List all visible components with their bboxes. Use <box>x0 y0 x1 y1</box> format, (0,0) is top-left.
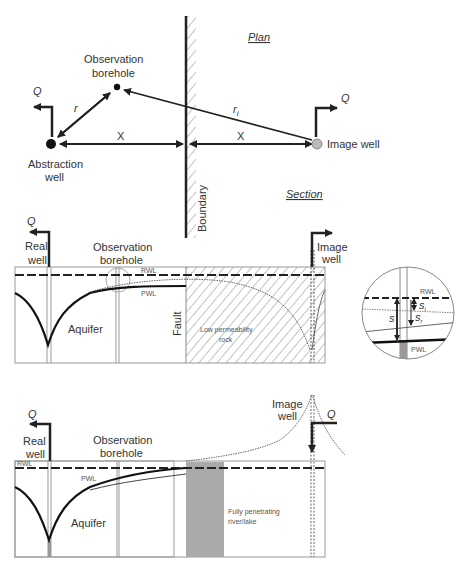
river-label-1: Fully penetrating <box>228 508 280 516</box>
inset-s: s <box>389 312 395 324</box>
rwl-label: RWL <box>141 267 157 274</box>
q-arrow-right <box>316 108 337 137</box>
pwl-label: PWL <box>141 290 156 297</box>
bottom-pwl-label: PWL <box>81 475 96 482</box>
plan-image-well-label: Image well <box>327 138 380 150</box>
abstraction-label-1: Abstraction <box>28 158 83 170</box>
low-perm-label-2: rock <box>219 336 233 343</box>
bottom-pwl-curve <box>15 468 186 540</box>
abstraction-well-dot <box>46 139 56 149</box>
x-label-right: X <box>237 130 245 142</box>
image-well-dot <box>312 139 322 149</box>
x-label-left: X <box>117 130 125 142</box>
section-title: Section <box>286 188 323 200</box>
plan-title: Plan <box>248 31 270 43</box>
river-lake-block <box>186 462 224 557</box>
section-river: Q Real well Observation borehole RWL PWL… <box>15 395 345 557</box>
plan-view: Plan Boundary Observation borehole Abstr… <box>28 16 380 238</box>
bottom-observation-1: Observation <box>93 434 152 446</box>
pwl-curve <box>15 286 186 345</box>
abstraction-label-2: well <box>44 171 64 183</box>
plan-q-right: Q <box>341 92 350 104</box>
drawdown-inset: s si sr RWL PWL <box>362 260 460 360</box>
observation-label-1: Observation <box>93 241 152 253</box>
bottom-rwl-label: RWL <box>17 460 33 467</box>
bottom-aquifer-label: Aquifer <box>71 517 106 529</box>
section-fault: Section Q Real well Observation borehole… <box>15 188 348 363</box>
bottom-image-well-1: Image <box>272 398 303 410</box>
low-perm-label-1: Low permeability <box>200 326 253 334</box>
image-well-label-1: Image <box>317 241 348 253</box>
section-q: Q <box>27 215 36 227</box>
boundary-hatch <box>186 16 196 238</box>
observation-borehole-dot <box>114 84 120 90</box>
river-label-2: river/lake <box>228 518 257 525</box>
image-well-label-2: well <box>321 253 341 265</box>
low-permeability-rock <box>186 267 325 363</box>
observation-label-2: borehole <box>100 254 143 266</box>
plan-observation-label-2: borehole <box>92 67 135 79</box>
inset-rwl-label: RWL <box>420 288 436 295</box>
image-well-mound <box>186 395 345 461</box>
bottom-q-right: Q <box>327 408 336 420</box>
q-arrow-left <box>34 107 52 137</box>
real-well-label-2: well <box>27 254 47 266</box>
inset-pwl-label: PWL <box>411 346 426 353</box>
fault-label: Fault <box>171 312 183 336</box>
plan-observation-label-1: Observation <box>84 53 143 65</box>
boundary-label: Boundary <box>196 184 208 232</box>
plan-q-left: Q <box>33 85 42 97</box>
aquifer-label: Aquifer <box>68 323 103 335</box>
image-well-diagram: Plan Boundary Observation borehole Abstr… <box>0 0 463 569</box>
bottom-observation-2: borehole <box>100 447 143 459</box>
ri-label: ri <box>233 103 239 118</box>
bottom-q-left: Q <box>28 408 37 420</box>
bottom-image-well-2: well <box>277 410 297 422</box>
r-label: r <box>74 102 79 114</box>
ri-arrow <box>124 90 312 140</box>
bottom-real-well-2: well <box>25 448 45 460</box>
real-well-label-1: Real <box>25 240 48 252</box>
bottom-real-well-1: Real <box>23 435 46 447</box>
q-arrow-image-bottom <box>312 423 337 452</box>
